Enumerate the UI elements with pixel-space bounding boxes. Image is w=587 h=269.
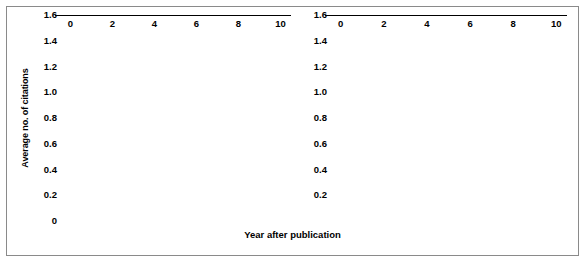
y-tick-labels-right: 0.20.40.60.81.01.21.41.6: [301, 15, 327, 221]
x-tick-label: 6: [467, 19, 472, 29]
y-tick-label: 0.6: [314, 139, 327, 149]
y-tick-label: 1.4: [44, 36, 57, 46]
x-tick-label: 10: [551, 19, 562, 29]
x-axis-title: Year after publication: [7, 229, 578, 240]
y-tick-label: 0.2: [314, 191, 327, 201]
x-tick-label: 4: [152, 19, 157, 29]
figure-panel: Average no. of citations 00.20.40.60.81.…: [6, 6, 579, 256]
y-tick-label: 1.0: [44, 88, 57, 98]
x-tick-labels-left: 0246810: [60, 15, 291, 33]
x-tick-label: 0: [68, 19, 73, 29]
x-tick-label: 6: [194, 19, 199, 29]
y-tick-label: 1.2: [314, 62, 327, 72]
x-tick-label: 8: [236, 19, 241, 29]
x-tick-label: 8: [510, 19, 515, 29]
y-tick-label: 0: [52, 216, 57, 226]
y-tick-label: 1.2: [44, 62, 57, 72]
y-tick-label: 0.2: [44, 191, 57, 201]
y-tick-label: 0.6: [44, 139, 57, 149]
plot-area-left: 0246810: [59, 15, 291, 16]
y-tick-label: 1.4: [314, 36, 327, 46]
chart-right: 0.20.40.60.81.01.21.41.6 0246810: [299, 15, 571, 221]
y-tick-label: 0.8: [314, 113, 327, 123]
y-axis-title-text: Average no. of citations: [20, 68, 30, 167]
y-tick-labels-left: 00.20.40.60.81.01.21.41.6: [31, 15, 57, 221]
x-tick-label: 4: [424, 19, 429, 29]
x-tick-label: 2: [110, 19, 115, 29]
x-tick-label: 10: [275, 19, 286, 29]
y-tick-label: 0.8: [44, 113, 57, 123]
x-tick-label: 0: [338, 19, 343, 29]
x-tick-labels-right: 0246810: [330, 15, 567, 33]
plot-area-right: 0246810: [329, 15, 567, 16]
y-tick-label: 1.0: [314, 88, 327, 98]
charts-row: Average no. of citations 00.20.40.60.81.…: [7, 7, 578, 221]
x-tick-label: 2: [381, 19, 386, 29]
y-tick-label: 0.4: [314, 165, 327, 175]
chart-left: Average no. of citations 00.20.40.60.81.…: [15, 15, 293, 221]
y-tick-label: 0.4: [44, 165, 57, 175]
